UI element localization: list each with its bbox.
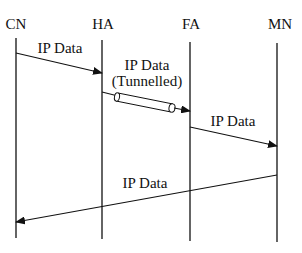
message-arrow-fa-mn <box>190 127 277 146</box>
message-label-mn-cn: IP Data <box>123 175 168 191</box>
participant-fa: FA <box>182 16 200 32</box>
participant-mn: MN <box>268 16 292 32</box>
message-label-fa-mn: IP Data <box>211 113 256 129</box>
participant-ha: HA <box>92 16 114 32</box>
tunnel-pipe <box>102 92 190 113</box>
message-arrow-cn-ha <box>16 53 102 73</box>
message-label-cn-ha: IP Data <box>38 40 83 56</box>
sequence-diagram: CN HA FA MN IP Data IP Data (Tunnelled) … <box>0 0 302 253</box>
message-label-ha-fa-line1: IP Data <box>125 57 170 73</box>
participant-cn: CN <box>6 16 27 32</box>
message-label-ha-fa-line2: (Tunnelled) <box>112 73 182 90</box>
